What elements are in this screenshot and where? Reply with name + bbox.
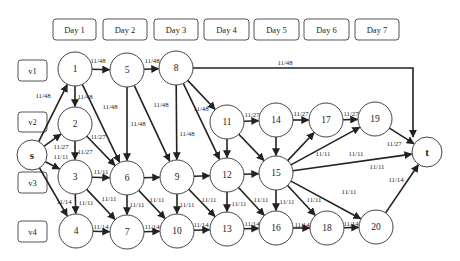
- edge-label-1-6: 11/48: [102, 103, 118, 110]
- sink-node: t: [412, 137, 442, 167]
- edge-label-7-10: 11/14: [144, 223, 160, 230]
- node-9: 9: [160, 160, 194, 194]
- day-box-1: Day 1: [53, 19, 96, 40]
- vehicle-label: v3: [28, 178, 37, 188]
- node-19: 19: [358, 102, 392, 136]
- edge-15-17: [288, 133, 314, 161]
- node-label: 8: [174, 63, 179, 73]
- node-label: 20: [371, 222, 381, 232]
- vehicle-label: v4: [28, 227, 37, 237]
- day-header: Day 1 Day 2 Day 3 Day 4 Day 5 Day 6 Day …: [53, 19, 399, 40]
- edge-8-9: [176, 85, 177, 160]
- node-label: 1: [73, 64, 78, 74]
- edge-label-4-7: 11/14: [93, 223, 109, 230]
- edge-label-s-2: 11/27: [53, 143, 69, 150]
- edge-label-16-18: 11/14: [294, 221, 310, 228]
- edge-label-1-2: 11/48: [77, 93, 93, 100]
- edge-label-15-16: 11/11: [280, 198, 295, 205]
- edge-label-8-11: 11/48: [193, 105, 209, 112]
- node-label: 13: [222, 224, 232, 234]
- node-7: 7: [110, 215, 144, 249]
- edge-label-2-6: 11/27: [90, 133, 106, 140]
- vehicle-label: v1: [28, 66, 37, 76]
- edge-label-20-t: 11/14: [388, 176, 404, 183]
- edge-label-9-13: 11/11: [202, 196, 217, 203]
- edge-label-layer: 11/4811/2711/1111/1411/4811/4811/4811/27…: [35, 57, 404, 230]
- day-label: Day 7: [367, 25, 388, 35]
- edge-label-5-8: 11/48: [144, 57, 160, 64]
- node-label: 6: [125, 173, 130, 183]
- day-box-4: Day 4: [204, 19, 249, 40]
- node-12: 12: [210, 158, 244, 192]
- node-label: 16: [271, 223, 281, 233]
- node-label: 11: [222, 117, 231, 127]
- node-label: 5: [125, 65, 130, 75]
- node-14: 14: [259, 103, 293, 137]
- edge-label-s-3: 11/11: [54, 153, 69, 160]
- node-10: 10: [160, 214, 194, 248]
- edge-label-19-t: 11/27: [386, 140, 402, 147]
- edge-s-3: [45, 162, 59, 169]
- day-box-7: Day 7: [355, 19, 399, 40]
- edge-15-t: [293, 154, 412, 171]
- day-box-5: Day 5: [254, 19, 299, 40]
- edge-label-15-20: 11/11: [342, 188, 357, 195]
- edge-label-17-19: 11/27: [343, 110, 359, 117]
- edge-11-14: [244, 121, 259, 122]
- day-label: Day 6: [316, 25, 337, 35]
- node-17: 17: [309, 103, 343, 137]
- node-label: 19: [370, 114, 380, 124]
- edge-label-5-6: 11/48: [130, 120, 146, 127]
- day-label: Day 1: [64, 25, 85, 35]
- vehicle-label: v2: [28, 117, 37, 127]
- node-6: 6: [110, 161, 144, 195]
- edge-12-15: [244, 174, 259, 175]
- edge-label-15-18: 11/11: [307, 196, 322, 203]
- edge-label-12-16: 11/11: [254, 196, 269, 203]
- edge-11-15: [239, 134, 264, 160]
- edge-label-3-7: 11/11: [102, 195, 117, 202]
- node-1: 1: [58, 52, 92, 86]
- edge-label-s-1: 11/48: [35, 92, 51, 99]
- day-box-6: Day 6: [304, 19, 349, 40]
- node-5: 5: [110, 53, 144, 87]
- vehicle-box-v2: v2: [18, 112, 47, 132]
- node-label: 14: [271, 115, 281, 125]
- edge-label-15-t: 11/11: [370, 163, 385, 170]
- node-label: 4: [74, 226, 79, 236]
- node-label: 9: [175, 172, 180, 182]
- node-label: 12: [222, 170, 232, 180]
- day-label: Day 2: [115, 25, 136, 35]
- node-4: 4: [59, 214, 93, 248]
- edge-label-5-9: 11/48: [153, 101, 169, 108]
- node-8: 8: [159, 51, 193, 85]
- node-label: 18: [322, 223, 332, 233]
- node-20: 20: [359, 210, 393, 244]
- edge-5-8: [144, 69, 159, 70]
- node-15: 15: [259, 156, 293, 190]
- node-label: 10: [172, 226, 182, 236]
- edge-label-8-t: 11/48: [277, 59, 293, 66]
- vehicle-box-v4: v4: [18, 221, 47, 242]
- edge-label-6-7: 11/11: [130, 201, 145, 208]
- edge-label-6-10: 11/11: [150, 196, 165, 203]
- node-label: 7: [125, 227, 130, 237]
- edge-20-t: [386, 165, 419, 213]
- node-2: 2: [58, 107, 92, 141]
- edge-label-14-17: 11/27: [293, 110, 309, 117]
- edge-label-18-20: 11/14: [343, 220, 359, 227]
- day-box-2: Day 2: [103, 19, 147, 40]
- vehicle-box-v1: v1: [18, 60, 47, 81]
- edge-label-15-19: 11/11: [349, 150, 364, 157]
- node-label: 2: [73, 119, 78, 129]
- edge-10-13: [194, 230, 210, 231]
- node-label: s: [30, 149, 35, 161]
- edge-label-12-13: 11/11: [232, 200, 247, 207]
- edge-label-10-13: 11/14: [193, 221, 209, 228]
- edge-label-1-5: 11/48: [90, 57, 106, 64]
- edge-label-s-4: 11/14: [56, 198, 72, 205]
- day-label: Day 4: [216, 25, 237, 35]
- day-label: Day 3: [166, 25, 187, 35]
- node-label: 17: [321, 115, 331, 125]
- day-box-3: Day 3: [154, 19, 198, 40]
